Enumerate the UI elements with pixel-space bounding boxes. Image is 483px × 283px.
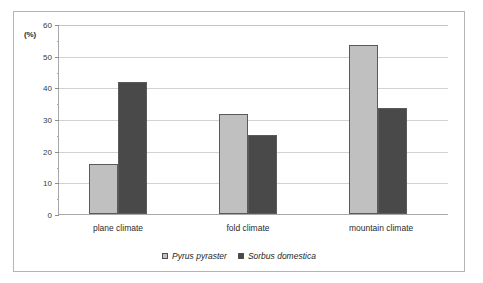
x-axis-category-label: fold climate [219,223,277,233]
y-axis-tick [55,152,59,153]
y-axis-minor-tick [57,199,59,200]
y-axis-tick-label: 30 [43,116,52,125]
legend-label: Sorbus domestica [248,251,316,261]
y-axis-tick-label: 20 [43,147,52,156]
y-axis-tick-label: 60 [43,21,52,30]
y-axis-minor-tick [57,104,59,105]
legend-item: Sorbus domestica [238,251,316,261]
y-axis-unit-label: (%) [24,30,36,39]
y-axis-tick [55,215,59,216]
y-axis-tick [55,57,59,58]
bar-group: fold climate [219,25,277,214]
y-axis-tick [55,120,59,121]
y-axis-tick-label: 50 [43,52,52,61]
y-axis-tick [55,25,59,26]
x-axis-category-label: mountain climate [349,223,407,233]
bar [349,45,378,214]
y-axis-minor-tick [57,73,59,74]
bar-group: plane climate [89,25,147,214]
legend-swatch-icon [162,253,168,259]
y-axis-minor-tick [57,41,59,42]
y-axis-minor-tick [57,136,59,137]
bar [118,82,147,214]
bar [89,164,118,214]
y-axis-tick [55,88,59,89]
bar-group: mountain climate [349,25,407,214]
bar [219,114,248,214]
legend-item: Pyrus pyraster [162,251,227,261]
bar [248,135,277,214]
y-axis-minor-tick [57,168,59,169]
y-axis-tick-label: 10 [43,179,52,188]
chart-figure: (%) 0102030405060 plane climatefold clim… [13,11,465,272]
legend-label: Pyrus pyraster [172,251,227,261]
bar [378,108,407,214]
y-axis-tick [55,183,59,184]
plot-area: 0102030405060 plane climatefold climatem… [58,25,448,215]
y-axis-tick-label: 40 [43,84,52,93]
legend-swatch-icon [238,253,244,259]
x-axis-category-label: plane climate [89,223,147,233]
chart-legend: Pyrus pyrasterSorbus domestica [14,251,464,261]
y-axis-tick-label: 0 [48,211,52,220]
